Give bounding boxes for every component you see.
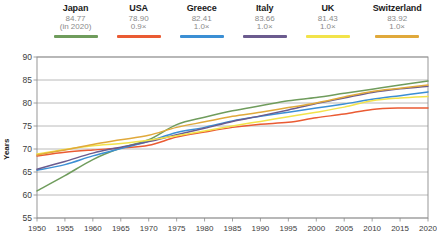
legend-label: Japan bbox=[63, 4, 89, 14]
legend-item-switzerland[interactable]: Switzerland 83.92 1.0× bbox=[359, 4, 435, 38]
legend-subtext: 0.9× bbox=[131, 23, 147, 32]
legend-color-swatch bbox=[375, 35, 419, 38]
legend-subtext: 1.0× bbox=[194, 23, 210, 32]
legend-label: Switzerland bbox=[373, 4, 422, 14]
legend-color-swatch bbox=[54, 35, 98, 38]
legend-label: Italy bbox=[256, 4, 274, 14]
legend-subtext: 1.0× bbox=[389, 23, 405, 32]
line-chart: Years 5560657075808590 19501955196019651… bbox=[0, 48, 435, 249]
legend-item-italy[interactable]: Italy 83.66 1.0× bbox=[233, 4, 296, 38]
legend-item-uk[interactable]: UK 81.43 1.0× bbox=[296, 4, 359, 38]
legend-subtext: (in 2020) bbox=[60, 23, 92, 32]
legend-color-swatch bbox=[243, 35, 287, 38]
legend-item-usa[interactable]: USA 78.90 0.9× bbox=[107, 4, 170, 38]
legend-subtext: 1.0× bbox=[257, 23, 273, 32]
legend-color-swatch bbox=[306, 35, 350, 38]
legend-item-greece[interactable]: Greece 82.41 1.0× bbox=[170, 4, 233, 38]
plot-area bbox=[0, 48, 435, 249]
chart-legend: Japan 84.77 (in 2020) USA 78.90 0.9× Gre… bbox=[0, 4, 435, 48]
legend-subtext: 1.0× bbox=[320, 23, 336, 32]
legend-label: Greece bbox=[187, 4, 217, 14]
legend-color-swatch bbox=[180, 35, 224, 38]
legend-color-swatch bbox=[117, 35, 161, 38]
legend-label: USA bbox=[129, 4, 148, 14]
legend-label: UK bbox=[321, 4, 334, 14]
legend-item-japan[interactable]: Japan 84.77 (in 2020) bbox=[44, 4, 107, 38]
